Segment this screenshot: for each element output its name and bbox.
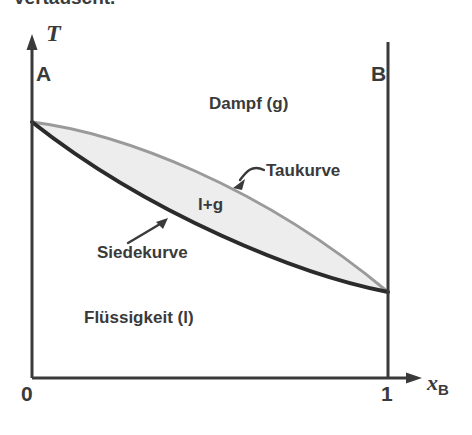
x-axis-label-main: x [427,370,438,395]
phase-diagram-figure: vertauscht. T xB A B 0 1 Dampf (g) Tauku… [0,0,472,435]
x-axis-label: xB [427,370,449,398]
boiling-curve-annotation-label: Siedekurve [97,243,188,263]
y-axis-arrowhead [27,34,38,50]
siedekurve-leader-line [128,224,160,243]
component-a-label: A [36,62,51,86]
x-tick-label-one: 1 [381,382,393,406]
two-phase-region-label: l+g [198,195,223,215]
dew-curve-annotation-label: Taukurve [266,161,340,181]
x-tick-label-zero: 0 [21,382,33,406]
taukurve-leader-line [240,168,264,180]
x-axis-arrowhead [406,373,422,384]
phase-diagram-canvas [0,0,472,435]
x-axis-label-subscript: B [438,381,449,398]
siedekurve-arrowhead [156,218,168,229]
vapor-region-label: Dampf (g) [209,94,288,114]
liquid-region-label: Flüssigkeit (l) [84,308,194,328]
component-b-label: B [371,62,386,86]
y-axis-label: T [46,20,61,47]
